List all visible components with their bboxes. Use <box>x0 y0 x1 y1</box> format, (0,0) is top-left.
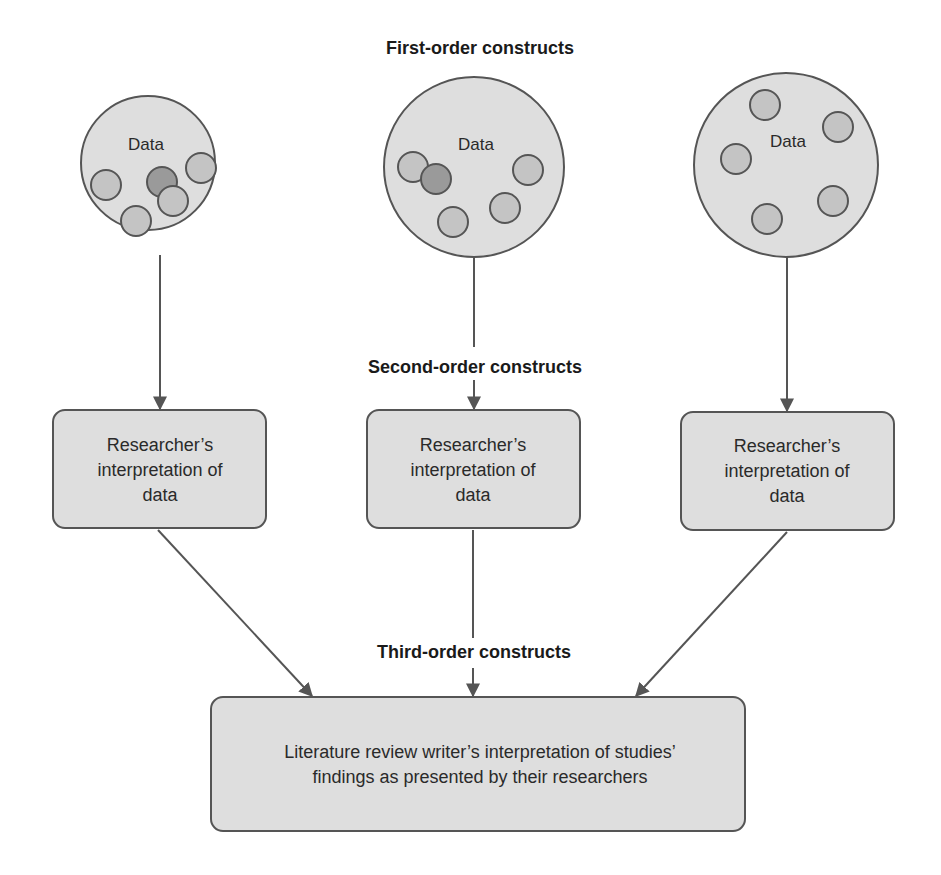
box-line-3: data <box>455 485 491 505</box>
box-line-1: Researcher’s <box>420 435 526 455</box>
data-circle-right: Data <box>694 73 878 257</box>
researcher-box-left: Researcher’s interpretation of data <box>53 410 266 528</box>
literature-line-1: Literature review writer’s interpretatio… <box>284 742 676 762</box>
data-point <box>121 206 151 236</box>
box-line-1: Researcher’s <box>734 436 840 456</box>
data-point <box>750 90 780 120</box>
box-line-3: data <box>769 486 805 506</box>
data-label: Data <box>458 135 494 154</box>
second-order-heading: Second-order constructs <box>368 357 582 377</box>
arrow-left-box-to-literature <box>158 530 312 696</box>
data-circle-middle: Data <box>384 77 564 257</box>
third-order-heading: Third-order constructs <box>377 642 571 662</box>
data-point <box>186 153 216 183</box>
constructs-diagram: First-order constructs Data Data Data Se… <box>0 0 941 875</box>
data-circle-left: Data <box>81 96 216 236</box>
data-point <box>438 207 468 237</box>
box-line-3: data <box>142 485 178 505</box>
researcher-box-middle: Researcher’s interpretation of data <box>367 410 580 528</box>
first-order-heading: First-order constructs <box>386 38 574 58</box>
data-point <box>752 204 782 234</box>
data-point <box>91 170 121 200</box>
data-point <box>421 164 451 194</box>
box-line-1: Researcher’s <box>107 435 213 455</box>
literature-line-2: findings as presented by their researche… <box>312 767 647 787</box>
data-point <box>823 112 853 142</box>
data-point <box>721 144 751 174</box>
arrow-right-box-to-literature <box>636 532 787 696</box>
data-point <box>513 155 543 185</box>
researcher-box-right: Researcher’s interpretation of data <box>681 412 894 530</box>
data-label: Data <box>770 132 806 151</box>
box-line-2: interpretation of <box>97 460 223 480</box>
data-point <box>490 193 520 223</box>
box-line-2: interpretation of <box>724 461 850 481</box>
data-label: Data <box>128 135 164 154</box>
data-point <box>158 186 188 216</box>
literature-review-box: Literature review writer’s interpretatio… <box>211 697 745 831</box>
box-line-2: interpretation of <box>410 460 536 480</box>
data-point <box>818 186 848 216</box>
